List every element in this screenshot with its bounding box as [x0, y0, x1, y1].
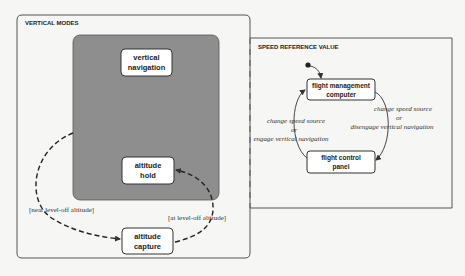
svg-text:altitude: altitude	[135, 161, 162, 170]
svg-text:change speed source: change speed source	[267, 117, 325, 125]
svg-text:or: or	[291, 126, 298, 134]
svg-text:vertical: vertical	[133, 53, 159, 62]
svg-text:flight control: flight control	[321, 154, 361, 162]
svg-text:altitude: altitude	[134, 232, 161, 241]
state-vertical-navigation: vertical navigation	[121, 49, 172, 76]
svg-text:or: or	[396, 114, 403, 122]
guard-at-level-off: [at level-off altitude]	[168, 214, 226, 222]
state-altitude-capture: altitude capture	[122, 228, 173, 254]
vertical-modes-title: VERTICAL MODES	[25, 20, 79, 26]
transition-initial	[310, 66, 321, 78]
svg-text:flight management: flight management	[312, 82, 371, 90]
state-altitude-hold: altitude hold	[122, 157, 174, 184]
statechart-diagram: VERTICAL MODES vertical navigation altit…	[0, 0, 465, 276]
speed-reference-title: SPEED REFERENCE VALUE	[258, 44, 339, 50]
svg-text:navigation: navigation	[128, 63, 166, 72]
svg-text:hold: hold	[140, 171, 156, 180]
svg-text:panel: panel	[333, 163, 350, 171]
svg-text:capture: capture	[134, 242, 161, 251]
svg-text:engage vertical navigation: engage vertical navigation	[253, 135, 329, 143]
svg-text:disengage vertical navigation: disengage vertical navigation	[350, 123, 434, 131]
svg-text:computer: computer	[326, 91, 356, 99]
initial-state-dot	[305, 62, 310, 67]
state-flight-control-panel: flight control panel	[307, 151, 375, 173]
state-flight-management-computer: flight management computer	[307, 79, 375, 100]
guard-near-level-off: [near level-off altitude]	[29, 206, 94, 214]
svg-text:change speed source: change speed source	[374, 105, 432, 113]
